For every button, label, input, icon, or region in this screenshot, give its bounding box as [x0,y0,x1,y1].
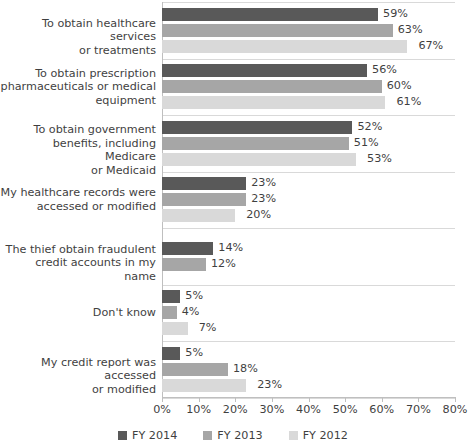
x-axis-tick-label: 20% [215,403,255,417]
x-axis-tick-mark [235,398,236,402]
x-axis-tick-mark [309,398,310,402]
legend-label: FY 2014 [132,429,177,442]
legend-label: FY 2012 [303,429,348,442]
chart-category-band [0,285,466,342]
x-axis-tick-label: 50% [325,403,365,417]
chart-category-band [0,115,466,172]
legend-item[interactable]: FY 2013 [203,429,262,442]
legend-item[interactable]: FY 2012 [289,429,348,442]
legend-swatch-icon [118,431,127,440]
chart-category-band [0,59,466,116]
chart-category-band [0,228,466,285]
x-axis-tick-mark [382,398,383,402]
chart-category-band [0,2,466,59]
legend-swatch-icon [289,431,298,440]
x-axis-tick-label: 60% [362,403,402,417]
x-axis-tick-mark [418,398,419,402]
chart-category-band [0,172,466,229]
x-axis-tick-label: 80% [435,403,472,417]
x-axis-tick-label: 30% [252,403,292,417]
x-axis-tick-mark [272,398,273,402]
legend-label: FY 2013 [217,429,262,442]
chart-legend: FY 2014FY 2013FY 2012 [0,427,466,443]
x-axis-tick-mark [455,398,456,402]
legend-item[interactable]: FY 2014 [118,429,177,442]
x-axis-tick-mark [162,398,163,402]
x-axis-tick-mark [199,398,200,402]
x-axis-tick-label: 40% [289,403,329,417]
x-axis-tick-mark [345,398,346,402]
chart-category-band [0,341,466,398]
x-axis-tick-label: 70% [398,403,438,417]
x-axis-tick-label: 0% [142,403,182,417]
legend-swatch-icon [203,431,212,440]
x-axis-tick-label: 10% [179,403,219,417]
